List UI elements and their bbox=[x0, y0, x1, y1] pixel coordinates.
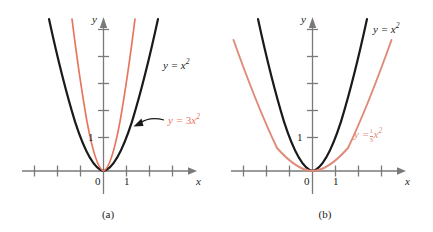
origin-label-a: 0 bbox=[95, 176, 101, 187]
fraction-one-third: 13 bbox=[370, 128, 374, 145]
curve-label-y-equals-x-squared-a: y = x2 bbox=[163, 58, 189, 71]
curve-label-y-equals-3x-squared-a: y = 3x2 bbox=[168, 113, 200, 126]
fraction-denominator: 3 bbox=[370, 137, 374, 144]
x-tick-label-1-b: 1 bbox=[333, 176, 339, 187]
label-a-base-exp: 2 bbox=[186, 57, 190, 66]
y-axis-b bbox=[307, 17, 318, 194]
label-a-hi-lhs: y = bbox=[168, 114, 183, 126]
label-b-base-exp: 2 bbox=[396, 21, 400, 30]
label-b-hi-lhs: y = bbox=[354, 128, 369, 140]
panel-b-plot bbox=[217, 0, 433, 232]
y-axis-label-a: y bbox=[92, 14, 97, 25]
y-axis-label-b: y bbox=[301, 14, 306, 25]
label-a-hi-exp: 2 bbox=[196, 112, 200, 121]
x-axis-label-a: x bbox=[196, 176, 201, 187]
panel-a: x y 0 1 1 y = x2 y = 3x2 (a) bbox=[0, 0, 216, 232]
origin-label-b: 0 bbox=[304, 176, 310, 187]
label-b-hi-exp: 2 bbox=[378, 126, 382, 135]
label-a-base-lhs: y = bbox=[163, 59, 178, 71]
panel-b: x y 0 1 1 y = x2 y =13x2 (b) bbox=[217, 0, 433, 232]
annotation-arrow-a bbox=[134, 119, 165, 127]
y-tick-label-1-a: 1 bbox=[88, 132, 94, 143]
panel-a-caption: (a) bbox=[0, 208, 216, 220]
label-b-base-lhs: y = bbox=[373, 23, 388, 35]
y-tick-label-1-b: 1 bbox=[297, 132, 303, 143]
x-tick-label-1-a: 1 bbox=[124, 176, 130, 187]
curve-label-y-equals-x-squared-b: y = x2 bbox=[373, 22, 399, 35]
figure-parabola-transformations: x y 0 1 1 y = x2 y = 3x2 (a) bbox=[0, 0, 433, 232]
fraction-numerator: 1 bbox=[370, 128, 374, 135]
x-axis-label-b: x bbox=[405, 176, 410, 187]
curve-label-y-equals-one-third-x-squared-b: y =13x2 bbox=[354, 127, 382, 145]
panel-b-caption: (b) bbox=[217, 208, 433, 220]
